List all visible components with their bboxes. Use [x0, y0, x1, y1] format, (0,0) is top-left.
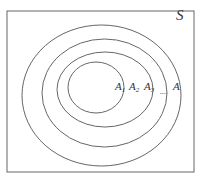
set-ellipse-n: [22, 25, 181, 166]
set-label-n: A: [172, 80, 180, 92]
nested-sets-diagram: S A1 A2 A3 .... A: [0, 0, 202, 181]
set-ellipse-3: [42, 39, 167, 147]
universe-label: S: [176, 7, 184, 23]
set-label-2: A2: [128, 80, 140, 94]
set-label-3: A3: [143, 80, 155, 94]
ellipsis: ....: [160, 88, 167, 96]
